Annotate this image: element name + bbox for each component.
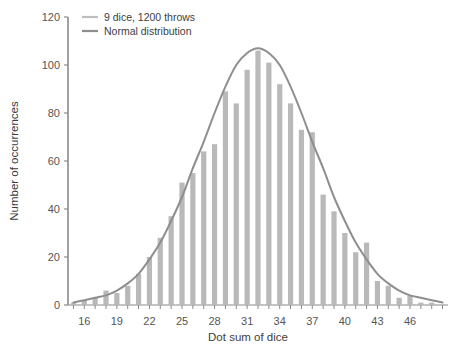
histogram-bar — [223, 91, 228, 305]
histogram-bar — [342, 233, 347, 305]
y-tick-label: 40 — [48, 203, 60, 215]
histogram-bar — [114, 293, 119, 305]
histogram-bar — [386, 286, 391, 305]
y-tick-label: 100 — [42, 59, 60, 71]
histogram-bar — [277, 84, 282, 305]
y-tick-label: 120 — [42, 11, 60, 23]
histogram-bar — [310, 132, 315, 305]
histogram-bar — [429, 303, 434, 305]
histogram-bar — [331, 211, 336, 305]
histogram-bar — [321, 195, 326, 305]
histogram-bar — [353, 252, 358, 305]
y-tick-label: 0 — [54, 299, 60, 311]
x-tick-label: 22 — [143, 315, 155, 327]
histogram-bar — [212, 144, 217, 305]
y-tick-label: 20 — [48, 251, 60, 263]
histogram-bar — [245, 70, 250, 305]
legend-label: Normal distribution — [104, 25, 192, 37]
histogram-bar — [418, 303, 423, 305]
histogram-bar — [201, 151, 206, 305]
histogram-bar — [190, 173, 195, 305]
histogram-bar — [169, 216, 174, 305]
x-tick-label: 16 — [78, 315, 90, 327]
x-tick-label: 46 — [404, 315, 416, 327]
x-tick-label: 34 — [274, 315, 286, 327]
histogram-bar — [288, 103, 293, 305]
histogram-bar — [397, 298, 402, 305]
dice-sum-histogram: 0204060801001201619222528313437404346Dot… — [0, 0, 454, 351]
x-tick-label: 25 — [176, 315, 188, 327]
y-tick-label: 60 — [48, 155, 60, 167]
x-tick-label: 40 — [339, 315, 351, 327]
histogram-bar — [255, 51, 260, 305]
histogram-bar — [103, 291, 108, 305]
histogram-bar — [147, 257, 152, 305]
x-tick-label: 43 — [371, 315, 383, 327]
histogram-bar — [125, 286, 130, 305]
histogram-bar — [234, 103, 239, 305]
histogram-bar — [266, 63, 271, 305]
x-tick-label: 37 — [306, 315, 318, 327]
x-axis-title: Dot sum of dice — [208, 331, 288, 343]
x-tick-label: 31 — [241, 315, 253, 327]
histogram-bar — [299, 130, 304, 305]
y-tick-label: 80 — [48, 107, 60, 119]
histogram-bar — [158, 238, 163, 305]
x-tick-label: 28 — [208, 315, 220, 327]
histogram-bar — [375, 281, 380, 305]
histogram-bar — [136, 274, 141, 305]
chart-container: 0204060801001201619222528313437404346Dot… — [0, 0, 454, 351]
y-axis-title: Number of occurrences — [8, 101, 20, 221]
legend-label: 9 dice, 1200 throws — [104, 11, 195, 23]
histogram-bar — [364, 243, 369, 305]
x-tick-label: 19 — [111, 315, 123, 327]
